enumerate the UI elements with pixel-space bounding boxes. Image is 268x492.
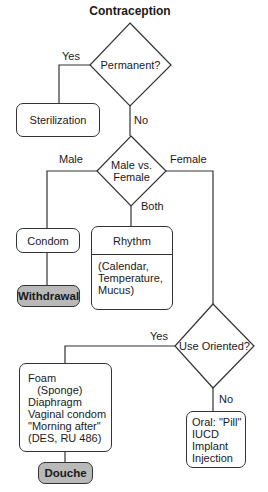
female-branch-label: Female bbox=[170, 153, 207, 165]
both-branch-label: Both bbox=[141, 200, 164, 212]
sex-decision-label: Male vs. Female bbox=[97, 159, 166, 183]
systemic-line: Implant bbox=[192, 440, 245, 452]
rhythm-box: Rhythm (Calendar, Temperature, Mucus) bbox=[91, 226, 173, 310]
permanent-no-label: No bbox=[134, 114, 148, 126]
rhythm-detail-line: (Calendar, bbox=[98, 260, 172, 272]
barrier-line: (Sponge) bbox=[28, 384, 111, 396]
barrier-line: (DES, RU 486) bbox=[28, 432, 111, 444]
male-branch-label: Male bbox=[59, 153, 83, 165]
rhythm-detail-line: Mucus) bbox=[98, 284, 172, 296]
rhythm-details: (Calendar, Temperature, Mucus) bbox=[92, 255, 172, 296]
systemic-line: Oral: "Pill" bbox=[192, 416, 245, 428]
permanent-yes-label: Yes bbox=[62, 50, 80, 62]
sterilization-box: Sterilization bbox=[16, 103, 100, 137]
douche-box: Douche bbox=[38, 462, 93, 484]
sex-label-line2: Female bbox=[97, 171, 166, 183]
condom-box: Condom bbox=[16, 228, 80, 253]
systemic-line: IUCD bbox=[192, 428, 245, 440]
systemic-line: Injection bbox=[192, 452, 245, 464]
sex-label-line1: Male vs. bbox=[97, 159, 166, 171]
withdrawal-box: Withdrawal bbox=[17, 285, 80, 307]
diagram-title: Contraception bbox=[80, 4, 180, 18]
barrier-line: Foam bbox=[28, 372, 111, 384]
use-oriented-label: Use Oriented? bbox=[175, 340, 254, 352]
barrier-line: Diaphragm bbox=[28, 396, 111, 408]
use-oriented-yes-label: Yes bbox=[150, 330, 168, 342]
rhythm-heading: Rhythm bbox=[92, 227, 172, 255]
systemic-methods-box: Oral: "Pill" IUCD Implant Injection bbox=[186, 411, 246, 468]
barrier-methods-box: Foam (Sponge) Diaphragm Vaginal condom "… bbox=[19, 363, 112, 452]
barrier-line: Vaginal condom bbox=[28, 408, 111, 420]
barrier-line: "Morning after" bbox=[28, 420, 111, 432]
use-oriented-no-label: No bbox=[219, 393, 233, 405]
permanent-label: Permanent? bbox=[90, 59, 171, 71]
rhythm-detail-line: Temperature, bbox=[98, 272, 172, 284]
